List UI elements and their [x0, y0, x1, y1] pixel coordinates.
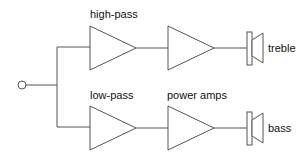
high-pass-filter-triangle — [90, 26, 136, 70]
treble-amp-triangle — [168, 26, 214, 70]
bass-label: bass — [268, 122, 292, 134]
high-pass-label: high-pass — [90, 8, 138, 20]
power-amps-label: power amps — [167, 89, 227, 101]
bass-amp-triangle — [168, 106, 214, 150]
low-pass-label: low-pass — [90, 89, 134, 101]
input-terminal — [18, 81, 26, 89]
treble-speaker-icon — [247, 32, 263, 65]
treble-label: treble — [268, 42, 296, 54]
crossover-diagram: high-pass treble low-pass power amps bas… — [0, 0, 308, 160]
bass-speaker-icon — [247, 112, 263, 145]
low-pass-filter-triangle — [90, 106, 136, 150]
